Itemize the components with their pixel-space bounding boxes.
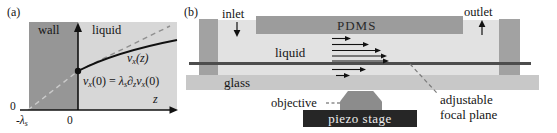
focal-plane-label-line2: focal plane xyxy=(440,108,497,121)
panel-a-plot xyxy=(0,0,190,133)
neg-lambda-label: -λs xyxy=(16,115,28,127)
vx-axis-arrow-icon xyxy=(74,23,82,33)
z-axis-arrow-icon xyxy=(170,106,179,113)
glass-label: glass xyxy=(224,76,250,89)
pdms-label: PDMS xyxy=(337,19,376,32)
lambda-sub: s xyxy=(25,119,28,128)
focal-plane-label-line1: adjustable xyxy=(440,93,493,106)
velocity-profile-arrows xyxy=(332,36,389,78)
slip-formula: vx(0) = λs∂zvx(0) xyxy=(83,75,159,87)
curve-label: vx(z) xyxy=(127,52,149,64)
formula-part: (0) xyxy=(145,74,159,88)
wall-label: wall xyxy=(38,24,60,37)
outlet-label: outlet xyxy=(464,6,492,19)
focal-plane-pointer-dashed-line xyxy=(410,64,437,93)
inlet-label: inlet xyxy=(222,8,244,21)
figure-two-panel: (a) wall liquid vx(z) vx(0) = λs∂zvx(0) … xyxy=(0,0,557,133)
inlet-arrow-icon xyxy=(234,22,241,37)
formula-part: (0) xyxy=(92,74,106,88)
formula-part: = xyxy=(106,74,119,88)
panel-a-tag: (a) xyxy=(7,6,20,18)
outlet-arrow-icon xyxy=(479,20,486,35)
zero-label: 0 xyxy=(67,115,73,127)
objective-label: objective xyxy=(271,97,317,110)
curve-label-args: (z) xyxy=(136,51,149,65)
liquid-label-b: liquid xyxy=(275,46,305,59)
panel-b-tag: (b) xyxy=(184,6,198,18)
z-axis-label: z xyxy=(153,93,158,105)
liquid-label-a: liquid xyxy=(92,24,121,37)
slip-dashed-line-wall xyxy=(28,71,78,110)
origin-zero-label: 0 xyxy=(10,101,16,113)
